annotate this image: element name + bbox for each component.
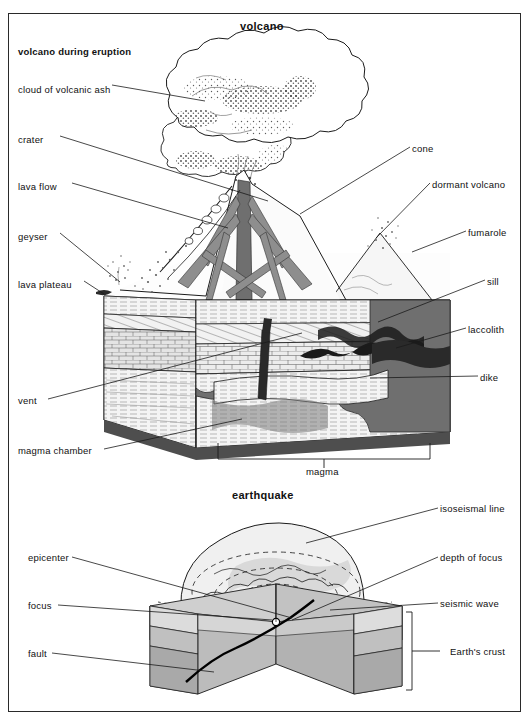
- label-earths-crust: Earth's crust: [450, 646, 505, 657]
- label-dormant-volcano: dormant volcano: [432, 179, 505, 190]
- label-seismic-wave: seismic wave: [440, 598, 499, 609]
- label-depth-of-focus: depth of focus: [440, 552, 502, 563]
- label-crater: crater: [18, 134, 43, 145]
- label-dike: dike: [480, 372, 498, 383]
- label-cloud-of-volcanic-ash: cloud of volcanic ash: [18, 84, 110, 95]
- label-magma-chamber: magma chamber: [18, 445, 92, 456]
- earthquake-section-title: earthquake: [232, 489, 294, 501]
- label-lava-plateau: lava plateau: [18, 279, 72, 290]
- geyser-plume: [107, 255, 130, 285]
- label-fumarole: fumarole: [468, 227, 507, 238]
- label-epicenter: epicenter: [28, 552, 69, 563]
- volcano-section-title: volcano: [240, 20, 284, 32]
- diagram-artwork: [0, 0, 532, 721]
- earthquake-group: [150, 523, 440, 694]
- label-magma: magma: [306, 466, 339, 477]
- label-vent: vent: [18, 395, 37, 406]
- label-laccolith: laccolith: [468, 324, 504, 335]
- label-geyser: geyser: [18, 231, 48, 242]
- earths-crust-bracket: [406, 612, 440, 690]
- label-cone: cone: [412, 143, 433, 154]
- ash-cloud-group: [161, 26, 369, 200]
- label-fault: fault: [28, 648, 47, 659]
- label-lava-flow: lava flow: [18, 181, 57, 192]
- volcano-subtitle: volcano during eruption: [18, 46, 131, 57]
- label-sill: sill: [487, 276, 499, 287]
- label-isoseismal-line: isoseismal line: [440, 503, 505, 514]
- label-focus: focus: [28, 600, 52, 611]
